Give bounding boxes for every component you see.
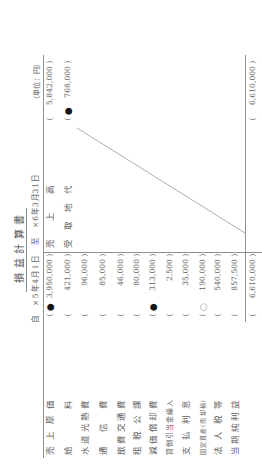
glyph: 上 [43,212,57,221]
account-label: 貸倒引当金繰入 [163,400,177,455]
glyph: 却 [146,412,160,421]
open-paren: ( [61,116,75,122]
glyph: 損 [196,403,210,409]
close-paren: ) [114,252,128,258]
glyph: 入 [163,400,177,407]
glyph: 3 [31,202,41,207]
glyph: 期 [228,435,242,444]
account-label: 水道光熱費 [78,400,92,455]
glyph: 日 [31,256,41,263]
glyph: 4 [31,279,41,284]
close-paren: ) [61,59,75,65]
account-label: 減価償却費 [146,400,160,455]
debit-row-communication: 通信費 ( 85,000 ) [96,0,110,464]
close-paren: ) [130,252,144,258]
open-paren: ( [228,312,242,318]
glyph: 売 [196,418,210,424]
amount-value: 35,000 [179,259,193,306]
open-paren: ( [130,312,144,318]
close-paren: ) [179,252,193,258]
credit-total-value: 6,610,000 [246,66,260,112]
glyph: 税 [211,415,225,424]
amount-value: 768,000 [61,66,75,112]
close-paren: ) [196,252,210,258]
glyph: 利 [228,412,242,421]
open-paren: ( [163,312,177,318]
amount-value: 85,000 [96,259,110,306]
glyph: 貸 [163,448,177,455]
glyph: 金 [163,416,177,423]
glyph: 人 [211,431,225,440]
open-paren: ( [179,312,193,318]
glyph: 単 [32,89,42,96]
debit-row-utilities: 水道光熱費 ( 96,000 ) [78,0,92,464]
glyph: 信 [96,423,110,432]
glyph: 費 [96,400,110,409]
glyph: ： [32,74,42,81]
glyph: ） [32,60,42,67]
glyph: 当 [163,424,177,431]
credit-row-sales: 売上高 ( 5,842,000 ) [43,0,57,464]
glyph: 通 [96,446,110,455]
glyph: 利 [179,415,193,424]
debit-row-net-income: 当期純利益 ( 857,500 ) [228,0,242,464]
amount-value: 540,000 [211,259,225,306]
glyph: 高 [43,185,57,194]
open-paren: ( [211,312,225,318]
glyph: 等 [211,400,225,409]
open-paren: ( [146,312,160,318]
glyph: 税 [130,431,144,440]
glyph: 租 [130,446,144,455]
glyph: ) [196,400,210,402]
glyph: 通 [114,412,128,421]
glyph: 減 [146,446,160,455]
glyph: 水 [78,446,92,455]
debit-row-income-taxes: 法人税等 ( 540,000 ) [211,0,225,464]
amount-value: 2,500 [163,259,177,306]
glyph: （ [32,96,42,103]
unit-label: （単位：円） [32,60,42,103]
glyph: 公 [130,415,144,424]
open-paren: ( [96,312,110,318]
glyph: 年 [31,285,41,292]
glyph: 定 [196,442,210,448]
amount-value: 313,000 [146,259,160,306]
glyph: 法 [211,446,225,455]
glyph: 課 [130,400,144,409]
glyph: 取 [61,221,75,230]
credit-total-row: ( 6,610,000 ) [246,0,260,464]
title-underline [26,208,27,292]
glyph: 代 [61,185,75,194]
credit-row-rent-income: 受取地代 ( ● 768,000 ) [61,0,75,464]
glyph: 熱 [78,412,92,421]
glyph: 費 [146,400,160,409]
glyph: 繰 [163,408,177,415]
glyph: 償 [146,423,160,432]
period-to-date: ×6年3月31日 [31,175,41,228]
close-paren: ) [78,252,92,258]
open-paren: ( [78,312,92,318]
glyph: 産 [196,428,210,434]
glyph: 年 [31,208,41,215]
glyph: 引 [163,432,177,439]
glyph: 3 [31,189,41,194]
amount-value: 5,842,000 [43,66,57,112]
glyph: 却 [196,410,210,416]
glyph: 売 [43,239,57,248]
glyph: 日 [31,175,41,182]
account-label: 受取地代 [61,185,75,248]
document-title: 損益計算書 [14,210,26,283]
close-paren: ) [211,252,225,258]
glyph: 1 [31,264,41,269]
close-paren: ) [146,252,160,258]
period-from-label: 自 [31,315,41,323]
debit-row-bad-debt-provision: 貸倒引当金繰入 ( 2,500 ) [163,0,177,464]
debit-row-depreciation: 減価償却費 ( ● 313,000 ) [146,0,160,464]
glyph: 費 [114,435,128,444]
debit-row-loss-on-sale-of-fixed-assets: 固定資産(売却損) ( ○ 190,000 ) [196,0,210,464]
close-paren: ) [163,252,177,258]
glyph: 資 [196,435,210,441]
glyph: 固 [196,449,210,455]
glyph: 純 [228,423,242,432]
glyph: 費 [78,400,92,409]
